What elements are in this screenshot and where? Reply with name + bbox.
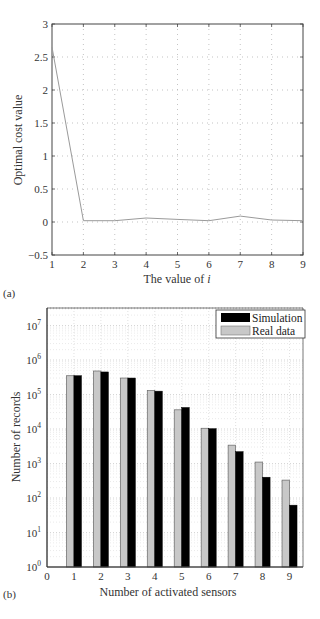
x-tick-label: 2 (98, 570, 104, 582)
bar-real-data (282, 480, 290, 567)
bar-real-data (120, 378, 128, 567)
y-tick-label: 0 (43, 216, 49, 228)
bar-real-data (201, 428, 209, 567)
bar-simulation (155, 391, 163, 567)
x-axis-label: The value of i (144, 272, 211, 286)
x-tick-label: 8 (260, 570, 266, 582)
y-tick-label: 103 (26, 456, 41, 470)
y-axis-label: Optimal cost value (11, 95, 25, 186)
x-tick-label: 2 (81, 258, 87, 270)
y-tick-label: 1 (43, 150, 49, 162)
figure: 32.521.510.50−0.5 123456789 Optimal cost… (0, 0, 320, 619)
x-tick-label: 1 (49, 258, 55, 270)
x-tick-label: 4 (152, 570, 158, 582)
bar-real-data (93, 371, 101, 567)
x-tick-label: 9 (300, 258, 306, 270)
y-tick-label: 105 (26, 387, 41, 401)
x-tick-label: 7 (238, 258, 244, 270)
bar-simulation (74, 376, 82, 567)
x-tick-label: 8 (269, 258, 275, 270)
y-tick-label: 1.5 (34, 117, 48, 129)
legend: Simulation Real data (216, 310, 305, 338)
y-tick-label: 100 (26, 559, 41, 573)
x-tick-label: 4 (143, 258, 149, 270)
y-tick-label: 107 (26, 318, 41, 332)
x-axis-ticks: 123456789 (49, 24, 306, 270)
x-tick-label: 6 (206, 258, 212, 270)
bar-real-data (147, 391, 155, 567)
legend-label-real-data: Real data (252, 325, 295, 337)
y-tick-label: 101 (26, 525, 41, 539)
bar-simulation (236, 452, 244, 567)
y-tick-label: 3 (43, 18, 49, 30)
bar-simulation (128, 378, 136, 567)
x-tick-label: 6 (206, 570, 212, 582)
line-chart-panel-a: 32.521.510.50−0.5 123456789 Optimal cost… (3, 18, 306, 300)
bar-real-data (228, 445, 236, 567)
bar-simulation (101, 372, 109, 567)
panel-label-a: (a) (3, 287, 16, 300)
bar-simulation (182, 407, 190, 567)
y-axis-ticks: 100101102103104105106107 (26, 318, 41, 574)
panel-label-b: (b) (3, 588, 16, 601)
x-tick-label: 0 (44, 570, 50, 582)
bar-chart-panel-b: 100101102103104105106107 0123456789 Simu… (3, 308, 305, 601)
y-tick-label: 2.5 (34, 51, 48, 63)
bar-real-data (255, 462, 263, 567)
bar-simulation (290, 505, 298, 567)
y-tick-label: 106 (26, 352, 41, 366)
bar-simulation (209, 429, 217, 567)
legend-label-simulation: Simulation (252, 312, 303, 324)
x-axis-ticks: 0123456789 (44, 570, 293, 582)
x-tick-label: 7 (233, 570, 239, 582)
x-tick-label: 3 (125, 570, 131, 582)
x-tick-label: 3 (112, 258, 118, 270)
y-tick-label: 2 (43, 84, 49, 96)
x-tick-label: 5 (179, 570, 185, 582)
legend-swatch-real-data (221, 326, 250, 335)
y-axis-label: Number of records (9, 391, 23, 482)
y-tick-label: 104 (26, 421, 41, 435)
x-tick-label: 5 (175, 258, 181, 270)
bar-series (66, 371, 297, 567)
bar-simulation (263, 477, 271, 567)
x-axis-label: Number of activated sensors (100, 585, 237, 599)
x-tick-label: 1 (71, 570, 77, 582)
bar-real-data (174, 410, 182, 567)
y-tick-label: 0.5 (34, 183, 48, 195)
bar-real-data (66, 376, 74, 567)
y-tick-label: −0.5 (28, 249, 48, 261)
x-tick-label: 9 (287, 570, 293, 582)
legend-swatch-simulation (221, 313, 250, 322)
y-tick-label: 102 (26, 490, 41, 504)
y-axis-ticks: 32.521.510.50−0.5 (28, 18, 303, 261)
